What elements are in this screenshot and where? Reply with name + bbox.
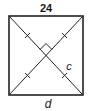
top-side-label: 24 [40,2,53,14]
square-diagram: 24 c d [0,0,88,111]
half-diagonal-label: c [66,60,72,72]
right-angle-marker [40,44,52,50]
bottom-label: d [45,97,52,111]
